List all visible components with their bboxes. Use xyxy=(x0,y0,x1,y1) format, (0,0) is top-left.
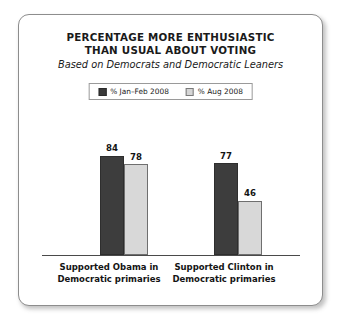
x-axis-baseline xyxy=(42,255,300,256)
bar-value-label: 46 xyxy=(244,188,256,198)
bar-group-clinton: 77 46 xyxy=(214,111,262,255)
light-square-swatch-icon xyxy=(186,88,194,96)
bar-jan-feb-2008-clinton[interactable] xyxy=(214,163,238,255)
bar-column[interactable]: 77 xyxy=(214,151,238,256)
bar-column[interactable]: 84 xyxy=(100,143,124,255)
x-axis-category-label-obama: Supported Obama in Democratic primaries xyxy=(44,262,174,285)
bar-value-label: 84 xyxy=(106,143,118,153)
legend-item-label: % Aug 2008 xyxy=(198,87,243,96)
legend-item-label: % Jan–Feb 2008 xyxy=(110,87,169,96)
bar-jan-feb-2008-obama[interactable] xyxy=(100,156,124,255)
chart-title-block: PERCENTAGE MORE ENTHUSIASTIC THAN USUAL … xyxy=(19,31,322,72)
bar-value-label: 77 xyxy=(220,151,232,161)
page-title-line-2: THAN USUAL ABOUT VOTING xyxy=(19,44,322,57)
dark-square-swatch-icon xyxy=(98,88,106,96)
category-label-line: Supported Obama in xyxy=(44,262,174,274)
chart-card: PERCENTAGE MORE ENTHUSIASTIC THAN USUAL … xyxy=(18,14,323,306)
plot-area: 84 78 77 46 xyxy=(42,111,300,255)
legend-item-jan-feb-2008[interactable]: % Jan–Feb 2008 xyxy=(98,87,169,96)
category-label-line: Supported Clinton in xyxy=(159,262,289,274)
bar-aug-2008-obama[interactable] xyxy=(124,164,148,255)
category-label-line: Democratic primaries xyxy=(159,274,289,286)
bar-group-obama: 84 78 xyxy=(100,111,148,255)
bar-aug-2008-clinton[interactable] xyxy=(238,201,262,255)
bar-column[interactable]: 46 xyxy=(238,188,262,255)
bar-value-label: 78 xyxy=(130,152,142,162)
page-title-line-1: PERCENTAGE MORE ENTHUSIASTIC xyxy=(19,31,322,44)
legend-item-aug-2008[interactable]: % Aug 2008 xyxy=(186,87,243,96)
chart-subtitle: Based on Democrats and Democratic Leaner… xyxy=(19,58,322,72)
chart-legend: % Jan–Feb 2008 % Aug 2008 xyxy=(88,83,253,100)
x-axis-category-label-clinton: Supported Clinton in Democratic primarie… xyxy=(159,262,289,285)
category-label-line: Democratic primaries xyxy=(44,274,174,286)
bar-column[interactable]: 78 xyxy=(124,152,148,255)
